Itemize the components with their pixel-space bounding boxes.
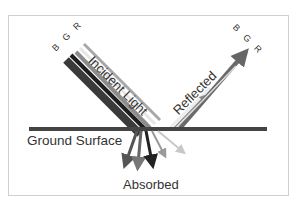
absorbed-arrow-3 bbox=[146, 131, 152, 162]
light-reflection-diagram bbox=[0, 0, 302, 202]
absorbed-arrow-1 bbox=[126, 131, 137, 162]
absorbed-arrows bbox=[126, 131, 182, 164]
absorbed-arrow-2 bbox=[138, 131, 141, 164]
ground-surface-label: Ground Surface bbox=[27, 133, 122, 148]
diagram-stage: B G R Incident Light Reflected B G R Gro… bbox=[0, 0, 302, 202]
ground-surface-line bbox=[29, 127, 267, 131]
absorbed-label: Absorbed bbox=[123, 177, 179, 192]
